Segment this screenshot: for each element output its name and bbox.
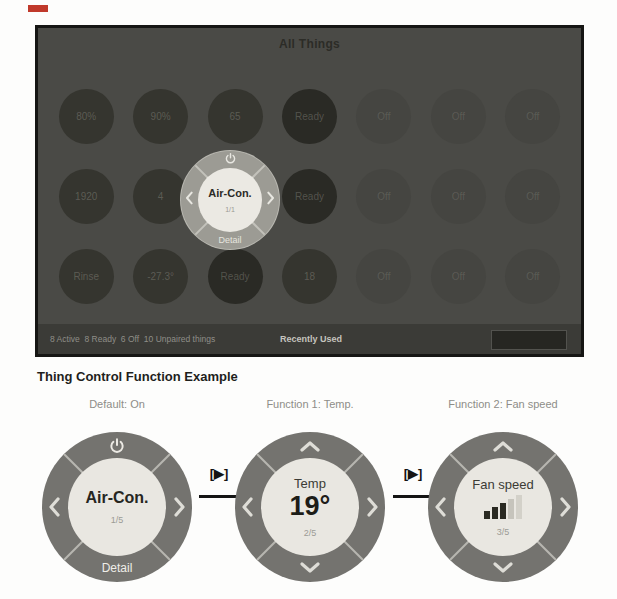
dial-center[interactable]: Air-Con. 1/1 (198, 168, 262, 232)
thing-circle[interactable]: Rinse (59, 249, 114, 304)
chevron-up-icon (235, 437, 385, 455)
dial-center: Air-Con. 1/5 (68, 458, 166, 556)
caption-function1: Function 1: Temp. (220, 398, 400, 410)
thing-circle[interactable]: 90% (133, 89, 188, 144)
bottom-right-button[interactable] (491, 330, 567, 350)
thing-circle[interactable]: 80% (59, 89, 114, 144)
thing-name: Air-Con. (85, 489, 148, 507)
thing-circle[interactable]: Off (431, 169, 486, 224)
chevron-down-icon (235, 559, 385, 577)
caption-function2: Function 2: Fan speed (407, 398, 599, 410)
thing-circle[interactable]: 18 (282, 249, 337, 304)
caption-default: Default: On (37, 398, 197, 410)
thing-circle[interactable]: Off (356, 249, 411, 304)
chevron-right-icon (559, 432, 573, 582)
power-icon (224, 151, 237, 169)
thing-circle[interactable]: Off (431, 89, 486, 144)
page-indicator: 2/5 (304, 528, 317, 538)
power-button[interactable] (181, 153, 279, 167)
detail-button[interactable]: Detail (181, 234, 279, 246)
arrow-right-icon (199, 495, 239, 498)
press-right-symbol: [▶] (388, 466, 438, 481)
page-indicator: 3/5 (497, 527, 510, 537)
things-summary: 8 Active 8 Ready 6 Off 10 Unpaired thing… (50, 334, 215, 344)
thing-circle[interactable]: Ready (208, 249, 263, 304)
status-bar: 8 Active 8 Ready 6 Off 10 Unpaired thing… (38, 324, 581, 354)
thing-circle[interactable]: Off (505, 89, 560, 144)
recently-used-label[interactable]: Recently Used (280, 334, 342, 344)
arrow-right-icon (393, 495, 433, 498)
function-name: Temp (294, 476, 326, 491)
dial-center: Fan speed 3/5 (454, 458, 552, 556)
red-scan-mark (28, 5, 48, 12)
chevron-left-icon (240, 432, 254, 582)
chevron-right-icon (366, 432, 380, 582)
thing-circle[interactable]: Off (505, 169, 560, 224)
example-dial-default: Detail Air-Con. 1/5 (42, 432, 192, 582)
things-grid: 80% 90% 65 Ready Off Off Off 1920 4 Read… (49, 89, 570, 304)
page-indicator: 1/1 (225, 206, 235, 213)
thing-circle[interactable]: Off (356, 169, 411, 224)
temp-value: 19° (290, 493, 331, 520)
thing-circle[interactable]: 4 (133, 169, 188, 224)
chevron-down-icon (428, 559, 578, 577)
thing-circle[interactable]: Off (356, 89, 411, 144)
figure-page: All Things 80% 90% 65 Ready Off Off Off … (0, 0, 617, 599)
example-heading: Thing Control Function Example (37, 369, 238, 384)
example-dial-fanspeed: Fan speed 3/5 (428, 432, 578, 582)
aircon-control-dial: Detail Air-Con. 1/1 (181, 151, 279, 249)
press-right-symbol: [▶] (194, 466, 244, 481)
page-indicator: 1/5 (111, 515, 124, 525)
thing-name: Air-Con. (208, 187, 251, 199)
power-icon (42, 437, 192, 455)
thing-circle[interactable]: Ready (282, 169, 337, 224)
fan-speed-bars-icon (484, 495, 522, 519)
function-name: Fan speed (472, 477, 533, 492)
all-things-screen: All Things 80% 90% 65 Ready Off Off Off … (35, 25, 584, 357)
thing-circle[interactable]: Ready (282, 89, 337, 144)
screen-title: All Things (38, 37, 581, 51)
thing-circle[interactable]: 65 (208, 89, 263, 144)
chevron-left-icon (433, 432, 447, 582)
thing-circle[interactable]: Off (505, 249, 560, 304)
example-dial-temp: Temp 19° 2/5 (235, 432, 385, 582)
detail-label: Detail (42, 559, 192, 577)
dial-center: Temp 19° 2/5 (261, 458, 359, 556)
thing-circle[interactable]: -27.3° (133, 249, 188, 304)
thing-circle[interactable]: 1920 (59, 169, 114, 224)
chevron-left-icon (185, 191, 193, 209)
thing-circle[interactable]: Off (431, 249, 486, 304)
chevron-right-icon (267, 191, 275, 209)
chevron-up-icon (428, 437, 578, 455)
